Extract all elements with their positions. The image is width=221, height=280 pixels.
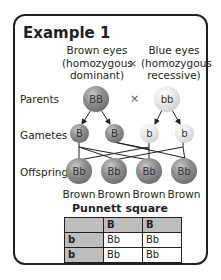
punnett-cell: Bb [104, 233, 143, 248]
offspring-ball-4: Bb [171, 158, 197, 184]
gamete-allele: b [146, 128, 152, 139]
punnett-row: b Bb Bb [65, 248, 182, 263]
offspring-phenotype-1: Brown [59, 188, 99, 200]
offspring-ball-1: Bb [66, 158, 92, 184]
punnett-cell: Bb [104, 248, 143, 263]
parent-recessive-genotype: bb [161, 94, 174, 105]
offspring-ball-3: Bb [136, 158, 162, 184]
offspring-genotype: Bb [107, 166, 120, 177]
punnett-corner [65, 218, 104, 233]
gamete-ball-3: b [140, 124, 159, 143]
offspring-genotype: Bb [142, 166, 155, 177]
offspring-ball-2: Bb [101, 158, 127, 184]
punnett-header-row: B B [65, 218, 182, 233]
gamete-allele: b [181, 128, 187, 139]
gamete-ball-4: b [175, 124, 194, 143]
gamete-ball-1: B [70, 124, 89, 143]
gamete-allele: B [111, 128, 118, 139]
offspring-phenotype-3: Brown [129, 188, 169, 200]
punnett-row-header: b [65, 233, 104, 248]
punnett-col-header: B [104, 218, 143, 233]
punnett-title: Punnett square [64, 202, 176, 215]
punnett-cell: Bb [143, 233, 182, 248]
gamete-allele: B [76, 128, 83, 139]
parents-cross-symbol: × [130, 92, 139, 105]
offspring-genotype: Bb [72, 166, 85, 177]
punnett-row: b Bb Bb [65, 233, 182, 248]
offspring-phenotype-2: Brown [94, 188, 134, 200]
offspring-genotype: Bb [177, 166, 190, 177]
parent-recessive-ball: bb [154, 86, 180, 112]
offspring-phenotype-4: Brown [164, 188, 204, 200]
parent-dominant-ball: BB [83, 86, 109, 112]
punnett-col-header: B [143, 218, 182, 233]
parent-dominant-genotype: BB [89, 94, 103, 105]
punnett-row-header: b [65, 248, 104, 263]
gamete-ball-2: B [105, 124, 124, 143]
punnett-square: B B b Bb Bb b Bb Bb [64, 217, 182, 263]
punnett-cell: Bb [143, 248, 182, 263]
